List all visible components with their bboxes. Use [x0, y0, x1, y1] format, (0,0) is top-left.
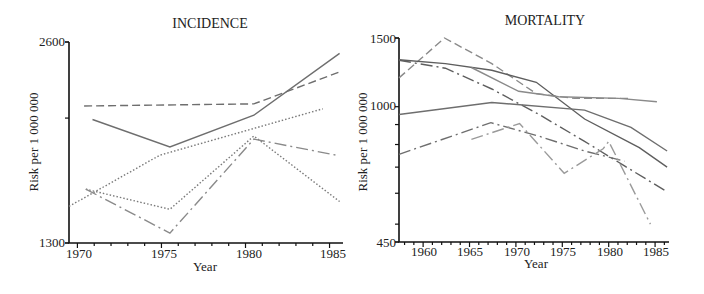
y-axis-label: Risk per 1 000 000 [26, 93, 41, 192]
series-lines [399, 38, 667, 224]
series-dotted-peak [86, 136, 340, 209]
x-tick-label: 1980 [597, 244, 623, 259]
series-dashed [84, 72, 340, 106]
x-tick-label: 1980 [236, 246, 262, 261]
x-tick-label: 1975 [151, 246, 177, 261]
x-axis-label: Year [193, 259, 218, 274]
incidence-chart: INCIDENCE 2600 1300 Risk per 1 000 000 Y… [26, 16, 346, 274]
x-tick-label: 1960 [411, 244, 437, 259]
y-max-label: 1500 [370, 31, 396, 46]
series-dash-dot-b [399, 123, 625, 162]
figure: INCIDENCE 2600 1300 Risk per 1 000 000 Y… [0, 0, 704, 294]
series-lines [69, 53, 340, 233]
series-solid-a [399, 60, 667, 167]
series-dash-dot [86, 139, 336, 233]
mortality-title: MORTALITY [505, 13, 585, 28]
x-tick-label: 1985 [320, 246, 346, 261]
x-tick-label: 1970 [504, 244, 530, 259]
y-max-label: 2600 [39, 34, 65, 49]
y-min-label: 450 [377, 235, 397, 250]
series-solid-c [399, 103, 667, 152]
x-tick-label: 1985 [643, 244, 669, 259]
axis-line [69, 42, 343, 243]
incidence-title: INCIDENCE [172, 16, 247, 31]
series-solid [93, 53, 340, 147]
y-min-label: 1300 [39, 235, 65, 250]
x-tick-label: 1970 [66, 246, 92, 261]
axes [65, 42, 343, 248]
y-axis-label: Risk per 1 000 000 [355, 93, 370, 192]
x-tick-label: 1975 [550, 244, 576, 259]
mortality-chart: MORTALITY 1500 1000 450 Risk per 1 000 0… [355, 13, 669, 271]
y-mid-label: 1000 [370, 98, 396, 113]
series-dotted-rising [69, 109, 323, 207]
